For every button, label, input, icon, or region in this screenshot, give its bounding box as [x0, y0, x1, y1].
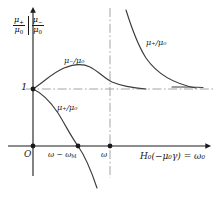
curve-label-mu-plus-right: μ₊/μ₀: [146, 39, 167, 47]
curve-label-mu-plus-lower: μ₊/μ₀: [57, 104, 78, 112]
permeability-figure: μ+ μ0 μ− μ0 1 O ω − ωM ω H₀(−μ₀γ) = ω₀ μ…: [0, 0, 222, 199]
marker-unity-point: [31, 87, 36, 92]
y-axis-label-mu-minus: μ− μ0: [28, 16, 47, 35]
curve-mu-plus-right: [126, 10, 196, 88]
x-tick-omega-minus-omega-m-text: ω − ω: [48, 150, 71, 159]
marker-omega: [108, 144, 113, 149]
curve-label-mu-minus: μ₋/μ₀: [64, 57, 85, 65]
curve-mu-minus-tail: [172, 87, 203, 88]
origin-label: O: [24, 150, 31, 159]
marker-origin: [31, 144, 36, 149]
x-tick-omega-m-subscript: M: [71, 153, 76, 159]
x-tick-label-omega-minus-omega-m: ω − ωM: [48, 151, 77, 160]
marker-omega-minus-omega-m: [76, 144, 81, 149]
x-tick-label-omega: ω: [101, 151, 107, 159]
y-axis-label-group: μ+ μ0 μ− μ0: [10, 16, 47, 35]
curve-mu-minus: [33, 64, 146, 89]
y-tick-label-one: 1: [21, 82, 27, 92]
y-axis-label-mu-plus: μ+ μ0: [10, 16, 28, 35]
x-axis-title: H₀(−μ₀γ) = ω₀: [140, 152, 205, 161]
